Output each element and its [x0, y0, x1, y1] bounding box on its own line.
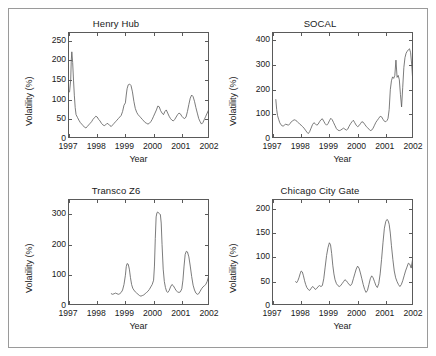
y-tick-label: 200 — [52, 239, 66, 249]
x-tick-mark-top — [182, 33, 183, 36]
y-tick-mark-right — [409, 65, 412, 66]
series-path-0 — [70, 52, 209, 128]
x-ticks-henry-hub: 199719981999200020012002 — [68, 140, 209, 154]
y-tick-mark — [273, 233, 276, 234]
x-tick-mark — [97, 134, 98, 137]
y-tick-mark-right — [205, 214, 208, 215]
y-axis-label-transco-z6: Volatility (%) — [24, 243, 34, 293]
series-path-2 — [111, 212, 209, 296]
x-tick-label: 1999 — [115, 141, 134, 151]
x-tick-label: 2000 — [347, 308, 366, 318]
y-tick-mark-right — [205, 245, 208, 246]
y-axis-label-socal: Volatility (%) — [228, 76, 238, 126]
x-tick-label: 1998 — [291, 141, 310, 151]
x-axis-label-henry-hub: Year — [68, 154, 209, 164]
y-tick-mark — [69, 80, 72, 81]
x-tick-mark — [386, 301, 387, 304]
y-tick-mark-right — [409, 40, 412, 41]
x-tick-label: 1999 — [319, 141, 338, 151]
series-line-transco-z6 — [69, 200, 209, 305]
x-tick-label: 2000 — [143, 141, 162, 151]
y-tick-mark-right — [409, 114, 412, 115]
x-tick-mark — [301, 134, 302, 137]
y-tick-mark-right — [409, 90, 412, 91]
x-tick-label: 2001 — [171, 308, 190, 318]
y-tick-mark-right — [205, 100, 208, 101]
y-tick-mark — [273, 114, 276, 115]
x-tick-label: 2002 — [403, 141, 422, 151]
x-tick-label: 1997 — [262, 141, 281, 151]
plot-area-socal — [272, 32, 413, 138]
y-tick-label: 50 — [56, 113, 66, 123]
x-tick-label: 2002 — [199, 308, 218, 318]
y-tick-mark-right — [205, 41, 208, 42]
series-line-chicago-city-gate — [273, 200, 413, 305]
x-tick-mark-top — [125, 33, 126, 36]
x-tick-mark — [154, 134, 155, 137]
x-tick-mark-top — [273, 33, 274, 36]
x-tick-label: 1997 — [58, 141, 77, 151]
x-tick-label: 1998 — [87, 141, 106, 151]
x-axis-label-transco-z6: Year — [68, 321, 209, 331]
y-tick-label: 100 — [52, 269, 66, 279]
y-tick-label: 200 — [256, 84, 270, 94]
x-tick-mark — [386, 134, 387, 137]
y-tick-mark — [69, 119, 72, 120]
series-path-1 — [276, 49, 413, 134]
x-tick-mark — [273, 301, 274, 304]
x-tick-mark-top — [358, 200, 359, 203]
y-tick-label: 300 — [52, 208, 66, 218]
y-tick-label: 200 — [52, 54, 66, 64]
y-tick-mark — [273, 65, 276, 66]
y-ticks-transco-z6: 0100200300 — [38, 199, 66, 305]
x-tick-mark-top — [182, 200, 183, 203]
x-tick-mark — [273, 134, 274, 137]
x-tick-label: 1997 — [262, 308, 281, 318]
y-tick-mark — [273, 257, 276, 258]
x-tick-mark-top — [329, 200, 330, 203]
series-path-3 — [296, 219, 413, 292]
x-tick-mark — [358, 134, 359, 137]
y-tick-label: 150 — [256, 227, 270, 237]
y-tick-label: 200 — [256, 203, 270, 213]
x-tick-label: 1998 — [291, 308, 310, 318]
x-tick-mark-top — [69, 200, 70, 203]
panel-title-henry-hub: Henry Hub — [14, 18, 218, 29]
x-tick-mark — [358, 301, 359, 304]
plot-area-chicago-city-gate — [272, 199, 413, 305]
panel-transco-z6: Transco Z6 Volatility (%) 0100200300 199… — [14, 181, 218, 345]
x-tick-label: 2002 — [403, 308, 422, 318]
y-ticks-henry-hub: 050100150200250 — [38, 32, 66, 138]
y-tick-label: 300 — [256, 59, 270, 69]
panel-chicago-city-gate: Chicago City Gate Volatility (%) 0501001… — [218, 181, 422, 345]
y-tick-mark — [273, 282, 276, 283]
y-tick-label: 100 — [256, 251, 270, 261]
x-tick-mark — [125, 134, 126, 137]
y-tick-mark-right — [205, 275, 208, 276]
y-tick-mark — [69, 214, 72, 215]
y-tick-mark — [69, 60, 72, 61]
x-tick-label: 1999 — [319, 308, 338, 318]
y-ticks-socal: 0100200300400 — [242, 32, 270, 138]
y-axis-label-henry-hub: Volatility (%) — [24, 76, 34, 126]
x-tick-mark — [182, 301, 183, 304]
y-tick-mark-right — [205, 80, 208, 81]
y-tick-mark — [273, 40, 276, 41]
panel-socal: SOCAL Volatility (%) 0100200300400 19971… — [218, 14, 422, 178]
y-tick-mark — [69, 245, 72, 246]
figure-root: Henry Hub Volatility (%) 050100150200250… — [0, 0, 436, 356]
y-tick-mark-right — [205, 119, 208, 120]
y-tick-mark-right — [409, 282, 412, 283]
x-tick-mark — [301, 301, 302, 304]
x-tick-label: 1997 — [58, 308, 77, 318]
y-tick-label: 50 — [260, 276, 270, 286]
x-tick-mark-top — [154, 33, 155, 36]
x-tick-mark — [97, 301, 98, 304]
x-tick-mark-top — [358, 33, 359, 36]
x-tick-mark-top — [386, 33, 387, 36]
x-tick-label: 2001 — [375, 141, 394, 151]
x-tick-mark-top — [69, 33, 70, 36]
x-tick-label: 1999 — [115, 308, 134, 318]
y-tick-mark-right — [409, 233, 412, 234]
y-axis-label-chicago-city-gate: Volatility (%) — [228, 243, 238, 293]
